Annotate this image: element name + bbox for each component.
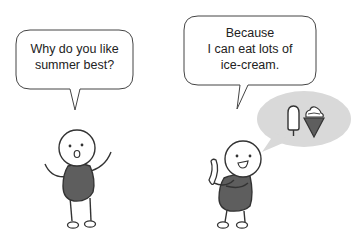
left-foot (218, 222, 229, 228)
left-eye (69, 145, 72, 148)
left-eye (236, 155, 239, 158)
left-foot (68, 222, 79, 228)
right-foot (237, 222, 248, 228)
right-eye (249, 155, 252, 158)
right-foot (85, 221, 96, 227)
head (59, 130, 95, 166)
body (219, 174, 252, 211)
head (225, 141, 261, 177)
raised-hand (209, 159, 218, 184)
speech-line: ice-cream. (184, 57, 316, 73)
right-character (209, 141, 261, 228)
right-eye (81, 144, 84, 147)
mouth-open (74, 151, 80, 158)
speech-line: Why do you like (16, 41, 133, 57)
thought-bubble (257, 91, 351, 152)
left-speech-text: Why do you like summer best? (16, 41, 133, 73)
speech-line: Because (184, 25, 316, 41)
right-speech-text: Because I can eat lots of ice-cream. (184, 25, 316, 73)
body (63, 164, 94, 201)
speech-line: I can eat lots of (184, 41, 316, 57)
left-character (45, 130, 111, 228)
speech-line: summer best? (16, 57, 133, 73)
